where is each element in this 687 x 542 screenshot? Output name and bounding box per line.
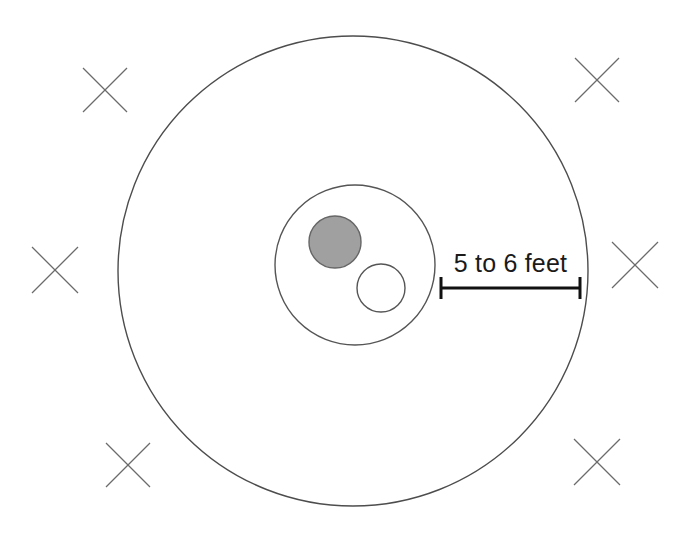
diagram-canvas: 5 to 6 feet — [0, 0, 687, 542]
dimension-label: 5 to 6 feet — [454, 249, 567, 277]
clearance-diagram: 5 to 6 feet — [0, 0, 687, 542]
shaded-stone-circle — [309, 216, 361, 268]
open-stone-circle — [357, 264, 405, 312]
diagram-background — [0, 0, 687, 542]
